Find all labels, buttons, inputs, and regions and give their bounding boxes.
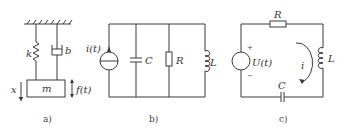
source-label: i(t) xyxy=(86,43,101,54)
plus-sign: + xyxy=(247,44,253,52)
spring-label: k xyxy=(26,48,32,59)
capacitor-label: C xyxy=(145,55,153,66)
minus-sign: − xyxy=(247,72,253,80)
resistor-label-c: R xyxy=(273,9,282,20)
inductor-label: L xyxy=(209,57,217,68)
inductor-b xyxy=(205,24,210,97)
panel-a-mechanical: k b m x f(t) a) xyxy=(11,20,92,124)
voltage-source xyxy=(232,52,250,70)
displacement-label: x xyxy=(11,84,17,95)
panel-c-caption: c) xyxy=(279,114,288,124)
capacitor-b xyxy=(130,24,142,97)
current-source xyxy=(100,24,118,97)
current-label: i xyxy=(301,60,304,71)
panel-c-series-circuit: R U(t) + − i L C c) xyxy=(232,9,335,124)
resistor-b xyxy=(166,24,172,97)
diagram-canvas: k b m x f(t) a) xyxy=(0,0,345,136)
spring xyxy=(33,24,39,80)
resistor-c xyxy=(270,21,286,27)
ceiling-ground xyxy=(24,20,72,24)
capacitor-label-c: C xyxy=(278,80,286,91)
current-arrow-icon xyxy=(107,46,111,52)
damper xyxy=(52,24,62,80)
inductor-label-c: L xyxy=(327,53,335,64)
panel-b-caption: b) xyxy=(149,114,158,124)
damper-label: b xyxy=(65,45,71,56)
source-label-c: U(t) xyxy=(252,57,272,68)
panel-a-caption: a) xyxy=(43,114,52,124)
panel-b-parallel-circuit: i(t) C R L b) xyxy=(86,24,217,124)
current-loop-arrow-icon xyxy=(296,43,313,82)
mass-label: m xyxy=(42,83,51,94)
inductor-c xyxy=(318,48,323,69)
force-label: f(t) xyxy=(75,84,92,95)
resistor-label: R xyxy=(175,55,184,66)
